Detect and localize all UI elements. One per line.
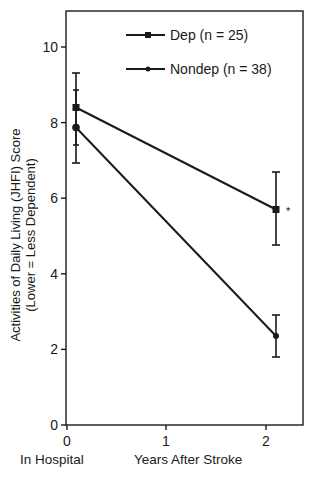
series-nondep [72,90,280,357]
dep-marker [273,206,280,213]
x-axis-tick-labels: 0 1 2 [63,433,270,449]
y-tick-label: 8 [50,115,58,131]
legend-item-dep [126,32,165,38]
y-axis-label-line2: (Lower = Less Dependent) [23,158,38,312]
chart: 0 2 4 6 8 10 0 1 2 In Hospital Years Aft… [0,0,314,478]
legend-label-dep: Dep (n = 25) [170,27,248,43]
legend-label-nondep: Nondep (n = 38) [170,61,272,77]
y-axis-tick-labels: 0 2 4 6 8 10 [42,39,58,433]
y-tick-label: 2 [50,341,58,357]
x-tick-label: 1 [162,433,170,449]
legend: Dep (n = 25) Nondep (n = 38) [126,27,272,77]
legend-item-nondep [126,67,165,72]
nondep-marker [273,333,279,339]
x-tick-label: 0 [63,433,71,449]
y-tick-label: 0 [50,417,58,433]
y-tick-label: 10 [42,39,58,55]
y-axis-ticks [61,47,66,425]
y-tick-label: 6 [50,190,58,206]
x-axis-label: Years After Stroke [134,452,242,467]
y-axis-label-line1: Activities of Daily Living (JHFI) Score [8,128,23,341]
y-tick-label: 4 [50,266,58,282]
square-marker-icon [145,32,151,38]
x-axis-ticks [67,425,266,430]
dot-marker-icon [146,67,151,72]
significance-asterisk: * [286,205,291,217]
series-dep [72,73,280,245]
nondep-marker [72,124,80,132]
x-axis-label-in-hospital: In Hospital [20,452,84,467]
x-tick-label: 2 [262,433,270,449]
